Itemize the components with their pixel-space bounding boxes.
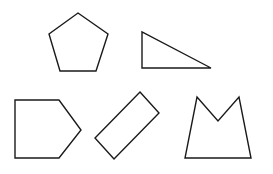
house-pentagon xyxy=(15,100,81,158)
regular-pentagon xyxy=(49,13,108,71)
tilted-rectangle xyxy=(95,92,159,159)
right-triangle xyxy=(142,32,211,68)
shapes-diagram xyxy=(0,0,273,174)
crown-concave-pentagon xyxy=(185,97,251,158)
